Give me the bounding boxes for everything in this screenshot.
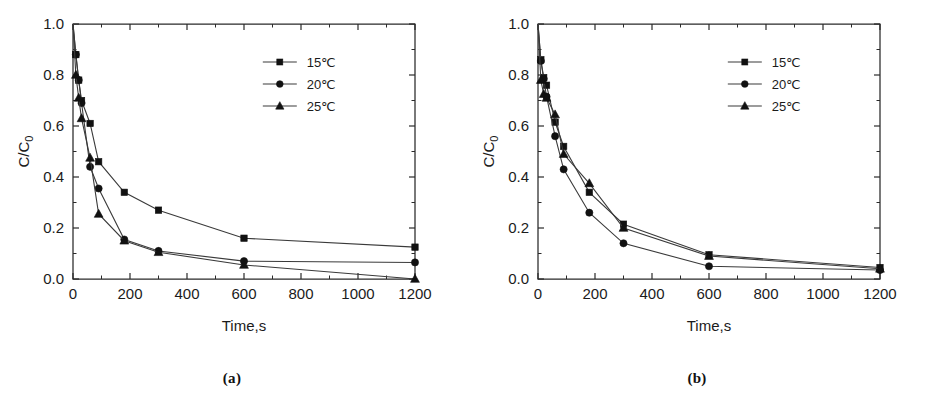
data-marker-circle bbox=[620, 240, 627, 247]
data-marker-triangle bbox=[559, 149, 568, 157]
x-tick-label: 1200 bbox=[398, 285, 431, 302]
chart-svg-a: 0200400600800100012000.00.20.40.60.81.0T… bbox=[0, 0, 464, 340]
y-axis-title-base: C/C bbox=[15, 141, 32, 167]
y-tick-label: 1.0 bbox=[508, 15, 529, 32]
y-axis-title-base: C/C bbox=[480, 141, 497, 167]
y-tick-label: 0.8 bbox=[43, 66, 64, 83]
y-tick-label: 0.6 bbox=[43, 117, 64, 134]
data-marker-circle bbox=[586, 209, 593, 216]
series-2 bbox=[537, 24, 883, 274]
data-marker-triangle bbox=[741, 102, 749, 109]
data-marker-square bbox=[95, 159, 101, 165]
x-tick-label: 400 bbox=[174, 285, 199, 302]
panel-caption-a: (a) bbox=[0, 370, 464, 387]
chart-panel-a: 0200400600800100012000.00.20.40.60.81.0T… bbox=[0, 0, 464, 399]
y-tick-label: 1.0 bbox=[43, 15, 64, 32]
series-line bbox=[73, 24, 415, 262]
data-marker-triangle bbox=[276, 102, 284, 109]
series-1 bbox=[73, 24, 419, 250]
x-tick-label: 1000 bbox=[341, 285, 374, 302]
data-marker-circle bbox=[276, 81, 283, 88]
y-axis-title: C/C0 bbox=[15, 136, 35, 168]
series-line bbox=[538, 24, 880, 269]
y-tick-label: 0.4 bbox=[43, 168, 64, 185]
data-marker-square bbox=[742, 59, 748, 65]
x-tick-label: 400 bbox=[639, 285, 664, 302]
series-line bbox=[538, 24, 880, 270]
data-marker-circle bbox=[705, 263, 712, 270]
y-tick-label: 0.6 bbox=[508, 117, 529, 134]
panel-caption-b: (b) bbox=[465, 370, 929, 387]
series-line bbox=[538, 24, 880, 268]
y-tick-label: 0.2 bbox=[43, 219, 64, 236]
chart-panel-b: 0200400600800100012000.00.20.40.60.81.0T… bbox=[465, 0, 929, 399]
x-tick-label: 800 bbox=[753, 285, 778, 302]
x-tick-label: 600 bbox=[696, 285, 721, 302]
series-line bbox=[73, 24, 415, 247]
data-marker-square bbox=[586, 189, 592, 195]
data-marker-circle bbox=[95, 185, 102, 192]
data-marker-triangle bbox=[86, 153, 95, 161]
x-tick-label: 1000 bbox=[806, 285, 839, 302]
data-marker-circle bbox=[552, 133, 559, 140]
data-marker-circle bbox=[741, 81, 748, 88]
x-tick-label: 0 bbox=[534, 285, 542, 302]
x-tick-label: 800 bbox=[288, 285, 313, 302]
data-marker-triangle bbox=[77, 114, 86, 122]
x-axis-title: Time,s bbox=[687, 317, 731, 334]
y-tick-label: 0.0 bbox=[43, 270, 64, 287]
legend: 15℃20℃25℃ bbox=[728, 55, 801, 114]
y-tick-label: 0.8 bbox=[508, 66, 529, 83]
data-marker-triangle bbox=[94, 209, 103, 217]
legend: 15℃20℃25℃ bbox=[263, 55, 336, 114]
x-axis: 020040060080010001200 bbox=[69, 24, 432, 302]
y-axis-title: C/C0 bbox=[480, 136, 500, 168]
data-marker-circle bbox=[87, 163, 94, 170]
legend-label-1: 15℃ bbox=[772, 55, 801, 70]
x-tick-label: 600 bbox=[231, 285, 256, 302]
chart-svg-b: 0200400600800100012000.00.20.40.60.81.0T… bbox=[465, 0, 929, 340]
legend-label-3: 25℃ bbox=[772, 99, 801, 114]
x-axis-title: Time,s bbox=[222, 317, 266, 334]
x-tick-label: 0 bbox=[69, 285, 77, 302]
legend-label-3: 25℃ bbox=[307, 99, 336, 114]
legend-label-2: 20℃ bbox=[307, 77, 336, 92]
data-marker-square bbox=[277, 59, 283, 65]
y-axis-title-subscript: 0 bbox=[23, 136, 35, 142]
plot-frame bbox=[538, 24, 880, 279]
y-tick-label: 0.4 bbox=[508, 168, 529, 185]
series-2 bbox=[72, 24, 418, 266]
data-marker-square bbox=[155, 207, 161, 213]
data-marker-circle bbox=[411, 259, 418, 266]
series-3 bbox=[71, 24, 419, 282]
data-marker-square bbox=[412, 244, 418, 250]
y-tick-label: 0.0 bbox=[508, 270, 529, 287]
data-marker-square bbox=[121, 189, 127, 195]
figure-container: 0200400600800100012000.00.20.40.60.81.0T… bbox=[0, 0, 929, 399]
series-1 bbox=[538, 24, 884, 271]
legend-label-2: 20℃ bbox=[772, 77, 801, 92]
data-marker-square bbox=[87, 120, 93, 126]
legend-label-1: 15℃ bbox=[307, 55, 336, 70]
data-marker-circle bbox=[560, 166, 567, 173]
x-tick-label: 200 bbox=[117, 285, 142, 302]
x-axis: 020040060080010001200 bbox=[534, 24, 897, 302]
y-axis-title-subscript: 0 bbox=[488, 136, 500, 142]
data-marker-circle bbox=[72, 51, 79, 58]
plot-frame-box bbox=[538, 24, 880, 279]
x-tick-label: 200 bbox=[582, 285, 607, 302]
data-marker-circle bbox=[537, 57, 544, 64]
y-axis: 0.00.20.40.60.81.0 bbox=[43, 15, 415, 287]
series-3 bbox=[536, 24, 884, 272]
y-tick-label: 0.2 bbox=[508, 219, 529, 236]
x-tick-label: 1200 bbox=[863, 285, 896, 302]
data-marker-square bbox=[241, 235, 247, 241]
